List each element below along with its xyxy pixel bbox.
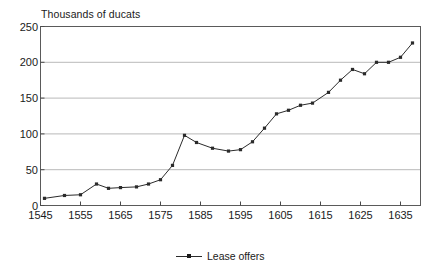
x-tick-label: 1575	[148, 209, 172, 221]
y-tick-label: 150	[8, 92, 38, 104]
x-axis-ticks	[41, 202, 401, 206]
plot-area	[0, 0, 435, 273]
x-tick-label: 1615	[308, 209, 332, 221]
x-tick-label: 1565	[108, 209, 132, 221]
gridlines	[41, 27, 421, 170]
y-tick-label: 250	[8, 21, 38, 33]
x-tick-label: 1625	[348, 209, 372, 221]
x-tick-label: 1545	[28, 209, 52, 221]
y-axis-ticks	[41, 27, 45, 206]
x-tick-label: 1605	[268, 209, 292, 221]
y-axis-title: Thousands of ducats	[41, 8, 140, 20]
x-tick-label: 1555	[68, 209, 92, 221]
x-tick-label: 1595	[228, 209, 252, 221]
x-tick-label: 1585	[188, 209, 212, 221]
legend-line-marker-icon	[176, 252, 202, 261]
y-tick-label: 200	[8, 56, 38, 68]
plot-frame	[41, 27, 421, 206]
legend-label-lease-offers: Lease offers	[207, 250, 265, 262]
y-tick-label: 50	[8, 164, 38, 176]
chart-legend: Lease offers	[176, 250, 265, 262]
y-tick-label: 100	[8, 128, 38, 140]
series-line-lease-offers	[45, 43, 413, 198]
chart-container: Thousands of ducats 050100150200250 1545…	[0, 0, 435, 273]
x-tick-label: 1635	[388, 209, 412, 221]
y-axis-tick-labels: 050100150200250	[5, 0, 38, 273]
series-markers-lease-offers	[43, 41, 414, 200]
